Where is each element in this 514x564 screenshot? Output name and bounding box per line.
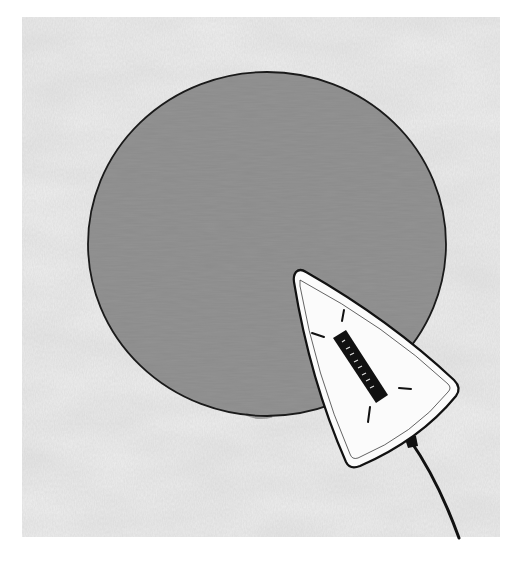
- illustration-scene: Illustration of a white clothes iron pre…: [0, 0, 514, 564]
- iron-on-patch-illustration: [0, 0, 514, 564]
